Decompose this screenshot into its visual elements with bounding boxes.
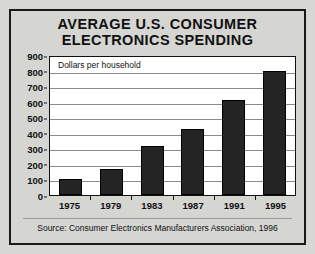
- bar-1975[interactable]: [59, 179, 82, 195]
- bar-1979[interactable]: [100, 169, 123, 195]
- y-axis-tick-300: 300: [27, 144, 43, 155]
- plot-inline-note: Dollars per household: [56, 60, 143, 70]
- x-axis-label-1987: 1987: [173, 200, 214, 211]
- bar-series: [50, 57, 295, 195]
- figure-root: AVERAGE U.S. CONSUMER ELECTRONICS SPENDI…: [0, 0, 315, 254]
- source-divider: [23, 218, 292, 219]
- bar-1987[interactable]: [181, 129, 204, 195]
- y-axis-tick-700: 700: [27, 82, 43, 93]
- chart-title: AVERAGE U.S. CONSUMER ELECTRONICS SPENDI…: [11, 16, 304, 48]
- source-caption: Source: Consumer Electronics Manufacture…: [11, 223, 304, 233]
- plot-region: 0100200300400500600700800900 Dollars per…: [17, 56, 302, 211]
- bar-slot-1991: [213, 57, 254, 195]
- x-axis-label-1983: 1983: [131, 200, 172, 211]
- bar-slot-1979: [91, 57, 132, 195]
- y-axis-tick-800: 800: [27, 66, 43, 77]
- bar-slot-1987: [172, 57, 213, 195]
- x-axis-label-1991: 1991: [214, 200, 255, 211]
- bar-1983[interactable]: [141, 146, 164, 195]
- x-axis-label-1979: 1979: [90, 200, 131, 211]
- y-axis-tick-500: 500: [27, 113, 43, 124]
- bar-slot-1995: [254, 57, 295, 195]
- y-axis-tick-600: 600: [27, 97, 43, 108]
- chart-panel: AVERAGE U.S. CONSUMER ELECTRONICS SPENDI…: [9, 9, 306, 245]
- plot-area: Dollars per household: [49, 56, 296, 196]
- bar-1991[interactable]: [222, 100, 245, 195]
- bar-slot-1975: [50, 57, 91, 195]
- y-axis-tick-0: 0: [38, 191, 43, 202]
- y-axis-tick-400: 400: [27, 128, 43, 139]
- x-axis-label-1995: 1995: [255, 200, 296, 211]
- chart-title-line-2: ELECTRONICS SPENDING: [11, 32, 304, 48]
- bar-1995[interactable]: [263, 71, 286, 195]
- bar-slot-1983: [132, 57, 173, 195]
- x-axis-tick-labels: 197519791983198719911995: [49, 200, 296, 211]
- y-axis-tick-900: 900: [27, 51, 43, 62]
- y-axis-tick-100: 100: [27, 175, 43, 186]
- x-axis-label-1975: 1975: [49, 200, 90, 211]
- chart-title-line-1: AVERAGE U.S. CONSUMER: [11, 16, 304, 32]
- y-axis-tick-labels: 0100200300400500600700800900: [17, 56, 47, 196]
- y-axis-tick-200: 200: [27, 159, 43, 170]
